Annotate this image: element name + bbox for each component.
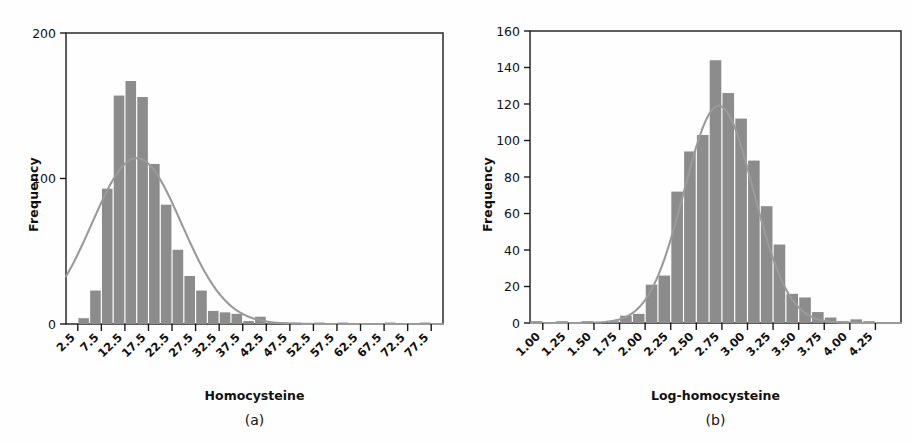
x-tick-label: 2.25 <box>641 329 671 359</box>
y-tick-label: 120 <box>496 97 520 112</box>
y-tick-label: 160 <box>496 24 520 39</box>
x-tick-label: 1.50 <box>564 329 594 359</box>
x-tick-label: 22.5 <box>142 330 172 360</box>
x-tick-label: 3.75 <box>794 329 824 359</box>
y-axis-label-b: Frequency <box>480 157 495 232</box>
x-tick-label: 2.00 <box>615 329 645 359</box>
x-tick-label: 2.75 <box>692 329 722 359</box>
y-tick-label: 80 <box>504 170 520 185</box>
y-tick-label: 60 <box>504 206 520 221</box>
x-tick-label: 27.5 <box>166 330 196 360</box>
panel-b: 0204060801001201401601.001.251.501.752.0… <box>456 0 912 445</box>
y-tick-label: 140 <box>496 60 520 75</box>
x-tick-label: 12.5 <box>95 330 125 360</box>
panel-a: 01002002.57.512.517.522.527.532.537.542.… <box>0 0 456 445</box>
panel-caption-b: (b) <box>530 412 901 428</box>
x-tick-label: 77.5 <box>401 330 431 360</box>
x-tick-label: 1.75 <box>590 329 620 359</box>
x-tick-label: 1.25 <box>539 329 569 359</box>
x-tick-label: 62.5 <box>331 330 361 360</box>
x-tick-label: 67.5 <box>354 330 384 360</box>
x-tick-label: 52.5 <box>284 330 314 360</box>
x-tick-label: 4.00 <box>820 329 850 359</box>
x-axis-label-b: Log-homocysteine <box>530 388 901 403</box>
x-tick-label: 47.5 <box>260 330 290 360</box>
y-tick-label: 0 <box>512 316 520 331</box>
x-tick-label: 72.5 <box>378 330 408 360</box>
y-tick-label: 20 <box>504 279 520 294</box>
x-tick-label: 37.5 <box>213 330 243 360</box>
x-tick-label: 57.5 <box>307 330 337 360</box>
figure-container: 01002002.57.512.517.522.527.532.537.542.… <box>0 0 912 445</box>
panel-caption-a: (a) <box>66 412 443 428</box>
x-tick-label: 3.25 <box>743 329 773 359</box>
x-tick-label: 3.00 <box>718 329 748 359</box>
histogram-a-plot: 01002002.57.512.517.522.527.532.537.542.… <box>0 0 456 445</box>
x-tick-label: 17.5 <box>119 330 149 360</box>
x-tick-label: 1.00 <box>513 329 543 359</box>
x-tick-label: 2.50 <box>666 329 696 359</box>
y-axis-label-a: Frequency <box>26 157 41 232</box>
x-tick-label: 3.50 <box>769 329 799 359</box>
y-tick-label: 200 <box>32 26 56 41</box>
y-tick-label: 0 <box>48 317 56 332</box>
x-tick-label: 2.5 <box>54 330 78 354</box>
x-tick-label: 42.5 <box>236 330 266 360</box>
x-tick-label: 32.5 <box>189 330 219 360</box>
x-tick-label: 4.25 <box>846 329 876 359</box>
y-tick-label: 40 <box>504 243 520 258</box>
y-tick-label: 100 <box>496 133 520 148</box>
histogram-b-plot: 0204060801001201401601.001.251.501.752.0… <box>456 0 912 445</box>
x-axis-label-a: Homocysteine <box>66 388 443 403</box>
